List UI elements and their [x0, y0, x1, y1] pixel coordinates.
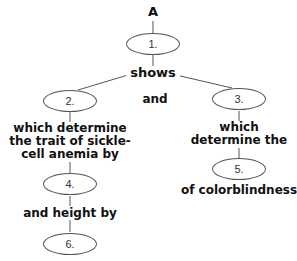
node-2: 2.: [43, 90, 97, 112]
node-6: 6.: [43, 233, 97, 255]
node-4: 4.: [43, 173, 97, 195]
node-5: 5.: [212, 158, 266, 180]
link-shows: shows: [126, 66, 180, 79]
node-1-label: 1.: [148, 38, 157, 50]
link-and: and: [140, 93, 170, 106]
right-branch-line-2: determine the: [189, 134, 289, 147]
left-branch-line-3: cell anemia by: [2, 148, 138, 161]
top-label: A: [146, 5, 160, 18]
node-3: 3.: [212, 88, 266, 110]
right-branch-text: which determine the: [189, 121, 289, 147]
node-2-label: 2.: [65, 95, 74, 107]
node-4-label: 4.: [65, 178, 74, 190]
node-1: 1.: [126, 33, 180, 55]
node-3-label: 3.: [234, 93, 243, 105]
node-5-label: 5.: [234, 163, 243, 175]
link-of-colorblindness: of colorblindness: [179, 184, 297, 197]
left-branch-text: which determine the trait of sickle- cel…: [2, 122, 138, 161]
link-and-height-by: and height by: [20, 207, 120, 220]
node-6-label: 6.: [65, 238, 74, 250]
